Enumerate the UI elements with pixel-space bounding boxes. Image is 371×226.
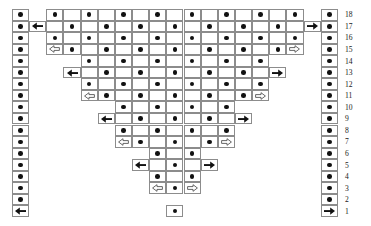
chart-cell[interactable] bbox=[184, 9, 201, 21]
chart-cell[interactable] bbox=[166, 171, 183, 183]
chart-cell[interactable] bbox=[201, 32, 218, 44]
chart-cell[interactable] bbox=[184, 125, 201, 137]
chart-cell[interactable] bbox=[149, 21, 166, 33]
chart-cell[interactable] bbox=[98, 90, 115, 102]
chart-cell[interactable] bbox=[166, 125, 183, 137]
chart-cell[interactable] bbox=[321, 125, 338, 137]
chart-cell[interactable] bbox=[149, 148, 166, 160]
chart-cell[interactable] bbox=[321, 90, 338, 102]
chart-cell[interactable] bbox=[46, 9, 63, 21]
chart-cell[interactable] bbox=[63, 67, 80, 79]
chart-cell[interactable] bbox=[321, 44, 338, 56]
chart-cell[interactable] bbox=[132, 32, 149, 44]
chart-cell[interactable] bbox=[321, 205, 338, 217]
chart-cell[interactable] bbox=[166, 9, 183, 21]
chart-cell[interactable] bbox=[149, 136, 166, 148]
chart-cell[interactable] bbox=[81, 21, 98, 33]
chart-cell[interactable] bbox=[201, 9, 218, 21]
chart-cell[interactable] bbox=[166, 101, 183, 113]
chart-cell[interactable] bbox=[321, 148, 338, 160]
chart-cell[interactable] bbox=[201, 21, 218, 33]
chart-cell[interactable] bbox=[269, 67, 286, 79]
chart-cell[interactable] bbox=[321, 9, 338, 21]
chart-cell[interactable] bbox=[201, 136, 218, 148]
chart-cell[interactable] bbox=[46, 21, 63, 33]
chart-cell[interactable] bbox=[252, 32, 269, 44]
chart-cell[interactable] bbox=[12, 136, 29, 148]
chart-cell[interactable] bbox=[132, 113, 149, 125]
chart-cell[interactable] bbox=[12, 171, 29, 183]
chart-cell[interactable] bbox=[132, 55, 149, 67]
chart-cell[interactable] bbox=[98, 32, 115, 44]
chart-cell[interactable] bbox=[149, 101, 166, 113]
chart-cell[interactable] bbox=[201, 67, 218, 79]
chart-cell[interactable] bbox=[166, 32, 183, 44]
chart-cell[interactable] bbox=[166, 78, 183, 90]
chart-cell[interactable] bbox=[201, 101, 218, 113]
chart-cell[interactable] bbox=[218, 90, 235, 102]
chart-cell[interactable] bbox=[218, 101, 235, 113]
chart-cell[interactable] bbox=[286, 44, 303, 56]
chart-cell[interactable] bbox=[149, 182, 166, 194]
chart-cell[interactable] bbox=[12, 182, 29, 194]
chart-cell[interactable] bbox=[321, 101, 338, 113]
chart-cell[interactable] bbox=[149, 90, 166, 102]
chart-cell[interactable] bbox=[166, 159, 183, 171]
chart-cell[interactable] bbox=[184, 21, 201, 33]
chart-cell[interactable] bbox=[63, 9, 80, 21]
chart-cell[interactable] bbox=[201, 44, 218, 56]
chart-cell[interactable] bbox=[115, 78, 132, 90]
chart-cell[interactable] bbox=[184, 136, 201, 148]
chart-cell[interactable] bbox=[269, 44, 286, 56]
chart-cell[interactable] bbox=[252, 90, 269, 102]
chart-cell[interactable] bbox=[12, 9, 29, 21]
chart-cell[interactable] bbox=[321, 21, 338, 33]
chart-cell[interactable] bbox=[252, 21, 269, 33]
chart-cell[interactable] bbox=[252, 9, 269, 21]
chart-cell[interactable] bbox=[149, 9, 166, 21]
chart-cell[interactable] bbox=[218, 125, 235, 137]
chart-cell[interactable] bbox=[269, 21, 286, 33]
chart-cell[interactable] bbox=[201, 90, 218, 102]
chart-cell[interactable] bbox=[12, 205, 29, 217]
chart-cell[interactable] bbox=[184, 101, 201, 113]
chart-cell[interactable] bbox=[12, 101, 29, 113]
chart-cell[interactable] bbox=[132, 90, 149, 102]
chart-cell[interactable] bbox=[218, 67, 235, 79]
chart-cell[interactable] bbox=[98, 78, 115, 90]
chart-cell[interactable] bbox=[98, 21, 115, 33]
chart-cell[interactable] bbox=[132, 159, 149, 171]
chart-cell[interactable] bbox=[81, 67, 98, 79]
chart-cell[interactable] bbox=[132, 9, 149, 21]
chart-cell[interactable] bbox=[98, 9, 115, 21]
chart-cell[interactable] bbox=[166, 205, 183, 217]
chart-cell[interactable] bbox=[321, 32, 338, 44]
chart-cell[interactable] bbox=[166, 21, 183, 33]
chart-cell[interactable] bbox=[235, 21, 252, 33]
chart-cell[interactable] bbox=[81, 9, 98, 21]
chart-cell[interactable] bbox=[252, 44, 269, 56]
chart-cell[interactable] bbox=[166, 182, 183, 194]
chart-cell[interactable] bbox=[81, 32, 98, 44]
chart-cell[interactable] bbox=[132, 78, 149, 90]
chart-cell[interactable] bbox=[12, 148, 29, 160]
chart-cell[interactable] bbox=[12, 159, 29, 171]
chart-cell[interactable] bbox=[12, 90, 29, 102]
chart-cell[interactable] bbox=[63, 32, 80, 44]
chart-cell[interactable] bbox=[218, 32, 235, 44]
chart-cell[interactable] bbox=[252, 78, 269, 90]
chart-cell[interactable] bbox=[166, 90, 183, 102]
chart-cell[interactable] bbox=[12, 78, 29, 90]
chart-cell[interactable] bbox=[184, 90, 201, 102]
chart-cell[interactable] bbox=[286, 32, 303, 44]
chart-cell[interactable] bbox=[235, 78, 252, 90]
chart-cell[interactable] bbox=[286, 9, 303, 21]
chart-cell[interactable] bbox=[81, 55, 98, 67]
chart-cell[interactable] bbox=[235, 113, 252, 125]
chart-cell[interactable] bbox=[115, 113, 132, 125]
chart-cell[interactable] bbox=[149, 32, 166, 44]
chart-cell[interactable] bbox=[321, 159, 338, 171]
chart-cell[interactable] bbox=[184, 182, 201, 194]
chart-cell[interactable] bbox=[98, 44, 115, 56]
chart-cell[interactable] bbox=[201, 159, 218, 171]
